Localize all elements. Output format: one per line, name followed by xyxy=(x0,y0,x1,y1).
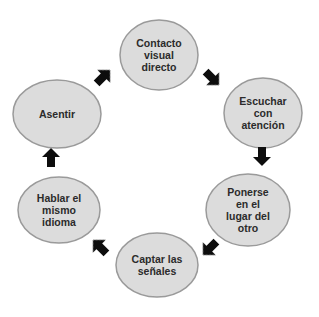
arrow-icon-escuchar-to-ponerse xyxy=(253,147,271,166)
node-label-hablar: Hablar el mismo idioma xyxy=(18,177,100,243)
node-label-ponerse: Ponerse en el lugar del otro xyxy=(206,174,290,246)
node-label-asentir: Asentir xyxy=(13,80,101,148)
node-label-captar: Captar las señales xyxy=(116,233,198,297)
arrow-icon-hablar-to-asentir xyxy=(42,148,60,167)
node-label-escuchar: Escuchar con atención xyxy=(224,78,302,148)
arrow-icon-contacto-to-escuchar xyxy=(199,65,225,91)
node-label-contacto: Contacto visual directo xyxy=(120,20,198,90)
